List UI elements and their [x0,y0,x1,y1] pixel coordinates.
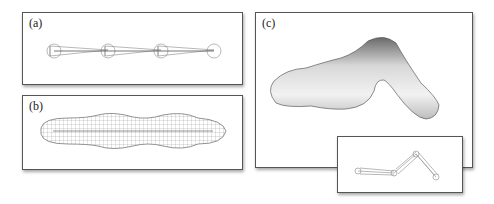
wireframe-mesh-illustration [23,96,244,171]
panel-b: (b) [22,95,243,170]
panel-a: (a) [22,12,243,85]
skeleton-straight-illustration [23,13,244,86]
panel-inset [337,136,463,193]
skeleton-bent-illustration [338,137,464,194]
